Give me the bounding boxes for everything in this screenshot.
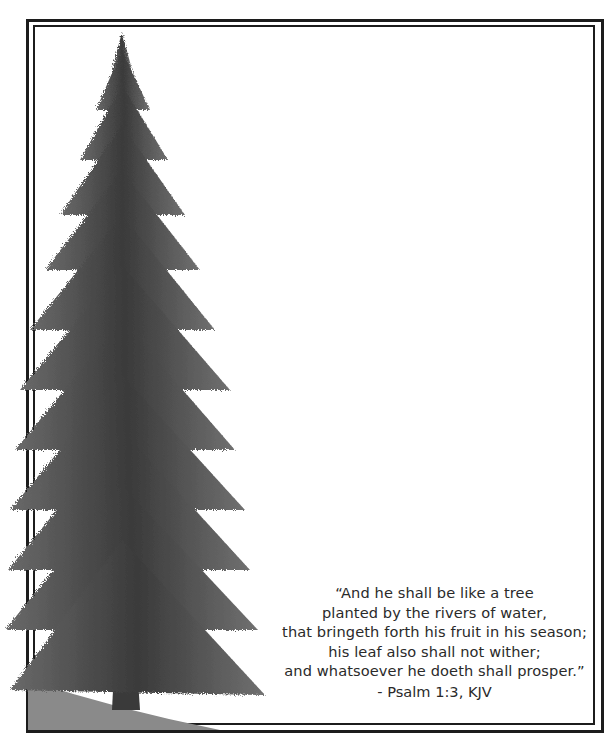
quote-line-1: “And he shall be like a tree [262, 583, 607, 603]
quote-line-5: and whatsoever he doeth shall prosper.” [262, 661, 607, 681]
pine-tree-illustration [0, 30, 270, 730]
citation: - Psalm 1:3, KJV [262, 683, 607, 700]
scripture-quote: “And he shall be like a tree planted by … [262, 583, 607, 681]
quote-line-3: that bringeth forth his fruit in his sea… [262, 622, 607, 642]
quote-line-2: planted by the rivers of water, [262, 603, 607, 623]
quote-line-4: his leaf also shall not wither; [262, 642, 607, 662]
